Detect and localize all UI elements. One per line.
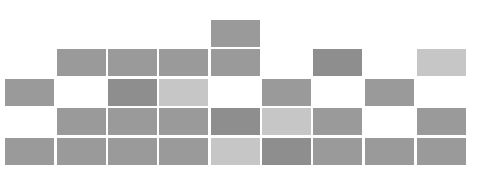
grid-block: [313, 138, 362, 165]
grid-block: [159, 138, 208, 165]
grid-block: [159, 108, 208, 135]
grid-block: [262, 79, 311, 106]
grid-block: [365, 138, 414, 165]
grid-block: [159, 79, 208, 106]
grid-block: [313, 108, 362, 135]
grid-block: [365, 79, 414, 106]
grid-block: [211, 20, 260, 47]
block-grid: [0, 0, 478, 184]
grid-block: [57, 108, 106, 135]
grid-block: [417, 108, 466, 135]
grid-block: [417, 49, 466, 76]
grid-block: [211, 49, 260, 76]
grid-block: [5, 138, 54, 165]
grid-block: [262, 138, 311, 165]
grid-block: [57, 49, 106, 76]
grid-block: [211, 108, 260, 135]
grid-block: [159, 49, 208, 76]
grid-block: [5, 79, 54, 106]
grid-block: [57, 138, 106, 165]
grid-block: [108, 49, 157, 76]
grid-block: [108, 79, 157, 106]
grid-block: [108, 138, 157, 165]
grid-block: [417, 138, 466, 165]
grid-block: [211, 138, 260, 165]
grid-block: [313, 49, 362, 76]
grid-block: [108, 108, 157, 135]
grid-block: [262, 108, 311, 135]
